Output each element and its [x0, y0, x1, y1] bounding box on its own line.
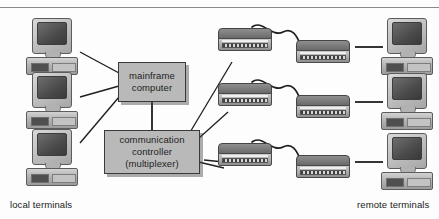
modem-label-strip [300, 167, 346, 169]
remote-terminal-3[interactable] [381, 133, 433, 191]
drive-slot-icon [31, 174, 49, 183]
controller-label-line2: controller [132, 146, 172, 158]
drive-slot-icon [386, 63, 404, 72]
remote-terminals-caption: remote terminals [357, 199, 429, 210]
controller-label-line1: communication [119, 134, 184, 146]
modem-led-row-icon [222, 43, 268, 48]
modem-label-strip [222, 95, 268, 97]
monitor-icon [387, 133, 427, 169]
modem-right-2[interactable] [296, 95, 350, 119]
drive-slot-icon [386, 118, 404, 127]
computer-case-icon [381, 172, 433, 190]
modem-front-panel [218, 38, 272, 51]
modem-label-strip [222, 40, 268, 42]
modem-led-row-icon [222, 98, 268, 103]
screen-icon [37, 76, 67, 99]
modem-label-strip [300, 52, 346, 54]
modem-led-row-icon [300, 170, 346, 175]
local-terminal-3[interactable] [26, 129, 78, 187]
modem-label-strip [300, 107, 346, 109]
computer-case-icon [381, 112, 433, 130]
modem-front-panel [218, 153, 272, 166]
mainframe-label-line2: computer [132, 82, 172, 94]
modem-left-3[interactable] [218, 143, 272, 167]
drive-slot-icon [31, 63, 49, 72]
local-terminal-1[interactable] [26, 18, 78, 76]
panel-icon [52, 117, 76, 126]
drive-slot-icon [386, 178, 404, 187]
local-terminals-caption: local terminals [10, 199, 72, 210]
modem-left-2[interactable] [218, 83, 272, 107]
modem-led-row-icon [300, 55, 346, 60]
monitor-icon [32, 129, 72, 165]
screen-icon [392, 77, 422, 100]
modem-led-row-icon [300, 110, 346, 115]
computer-case-icon [26, 111, 78, 129]
panel-icon [52, 174, 76, 183]
panel-icon [407, 63, 431, 72]
drive-slot-icon [31, 117, 49, 126]
wire-local1-to-mainframe [80, 52, 119, 73]
monitor-icon [32, 18, 72, 54]
computer-case-icon [26, 168, 78, 186]
modem-front-panel [296, 105, 350, 118]
diagram-canvas: mainframe computer communication control… [0, 0, 439, 219]
modem-right-1[interactable] [296, 40, 350, 64]
screen-icon [392, 137, 422, 160]
modem-right-3[interactable] [296, 155, 350, 179]
local-terminal-2[interactable] [26, 72, 78, 130]
modem-front-panel [296, 165, 350, 178]
monitor-icon [32, 72, 72, 108]
modem-front-panel [218, 93, 272, 106]
wire-local2-to-mainframe [80, 86, 119, 97]
remote-terminal-2[interactable] [381, 73, 433, 131]
panel-icon [52, 63, 76, 72]
modem-label-strip [222, 155, 268, 157]
screen-icon [37, 133, 67, 156]
mainframe-computer-box[interactable]: mainframe computer [118, 62, 186, 102]
screen-icon [392, 22, 422, 45]
modem-left-1[interactable] [218, 28, 272, 52]
screen-icon [37, 22, 67, 45]
modem-front-panel [296, 50, 350, 63]
controller-label-line3: (multiplexer) [125, 158, 179, 170]
remote-terminal-1[interactable] [381, 18, 433, 76]
panel-icon [407, 118, 431, 127]
panel-icon [407, 178, 431, 187]
monitor-icon [387, 73, 427, 109]
monitor-icon [387, 18, 427, 54]
mainframe-label-line1: mainframe [129, 70, 175, 82]
communication-controller-box[interactable]: communication controller (multiplexer) [104, 130, 200, 174]
modem-led-row-icon [222, 158, 268, 163]
